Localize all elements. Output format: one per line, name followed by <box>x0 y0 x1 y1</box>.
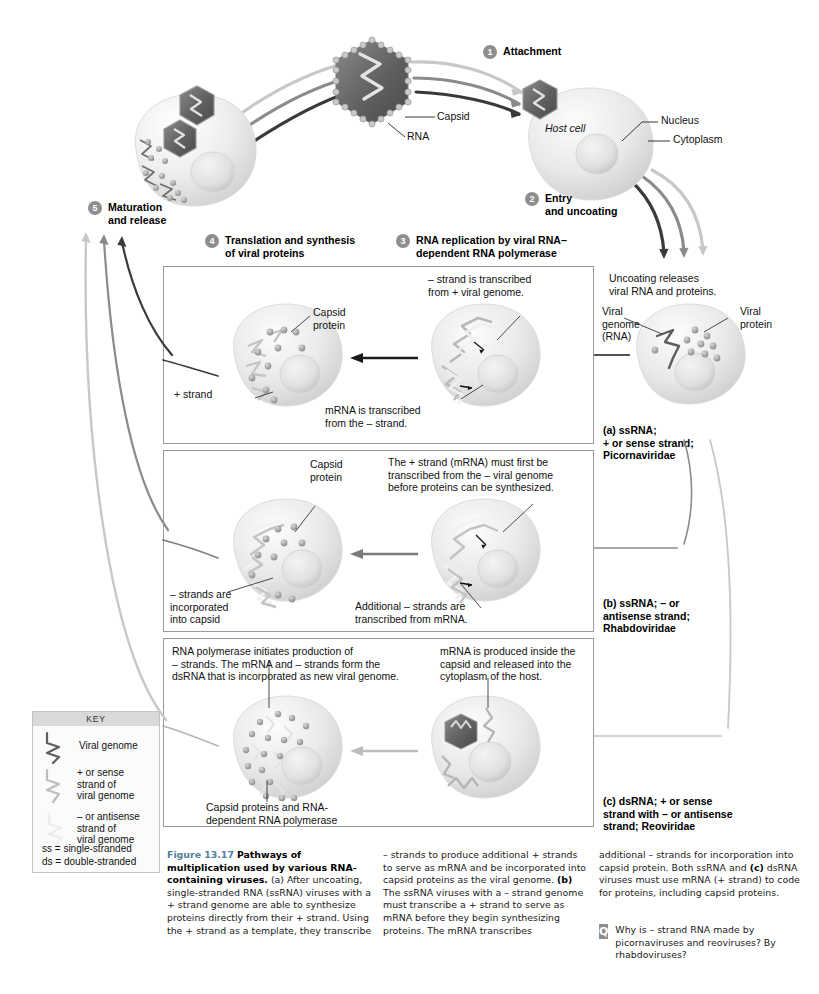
key-item-plus-strand: + or sense strand of viral genome <box>33 766 159 810</box>
caption-text-2b: The ssRNA viruses with a – strand genome… <box>383 887 583 936</box>
attached-virion <box>521 78 565 126</box>
key-footnotes: ss = single-stranded ds = double-strande… <box>42 842 136 868</box>
released-virion <box>178 84 222 132</box>
figure-canvas: Capsid RNA Nucleus Cytoplasm Host cell 1… <box>0 0 819 994</box>
question-block: Q Why is – strand RNA made by picornavir… <box>599 924 814 962</box>
label-rna: RNA <box>407 130 429 143</box>
label-nucleus: Nucleus <box>661 114 699 127</box>
key-label-minus-strand: – or antisense strand of viral genome <box>77 811 140 846</box>
caption-column-1: Figure 13.17 Pathways of multiplication … <box>167 849 373 937</box>
key-label-viral-genome: Viral genome <box>79 740 138 752</box>
label-cytoplasm: Cytoplasm <box>673 133 723 146</box>
label-capsid: Capsid <box>437 110 470 123</box>
caption-column-3: additional – strands for incorporation i… <box>599 849 809 899</box>
caption-text-2a: – strands to produce additional + strand… <box>383 849 586 885</box>
caption-c-marker: (c) <box>750 862 764 873</box>
label-host-cell: Host cell <box>545 122 585 135</box>
step-1-badge: 1 <box>483 45 497 59</box>
figure-number: Figure 13.17 <box>167 849 234 860</box>
key-label-plus-strand: + or sense strand of viral genome <box>77 767 134 802</box>
caption-b-marker: (b) <box>557 874 572 885</box>
key-title: KEY <box>33 712 159 726</box>
plus-sense-strand-squiggle-icon <box>43 768 77 806</box>
viral-genome-squiggle-icon <box>43 731 77 765</box>
key-box: KEY Viral genome + or sense strand of vi… <box>32 711 160 873</box>
caption-column-2: – strands to produce additional + strand… <box>383 849 589 937</box>
question-text: Why is – strand RNA made by picornavirus… <box>615 924 814 962</box>
key-item-viral-genome: Viral genome <box>33 726 159 766</box>
right-branch-curves <box>600 440 819 760</box>
question-badge-icon: Q <box>599 924 608 939</box>
step-1[interactable]: 1 Attachment <box>483 45 561 59</box>
step-1-label: Attachment <box>503 45 561 58</box>
